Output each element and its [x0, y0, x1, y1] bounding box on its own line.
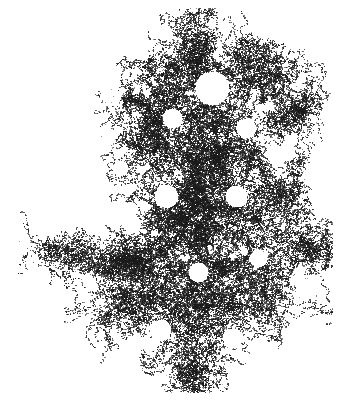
fractal-figure [0, 0, 354, 405]
fractal-cluster-plot [0, 0, 354, 405]
